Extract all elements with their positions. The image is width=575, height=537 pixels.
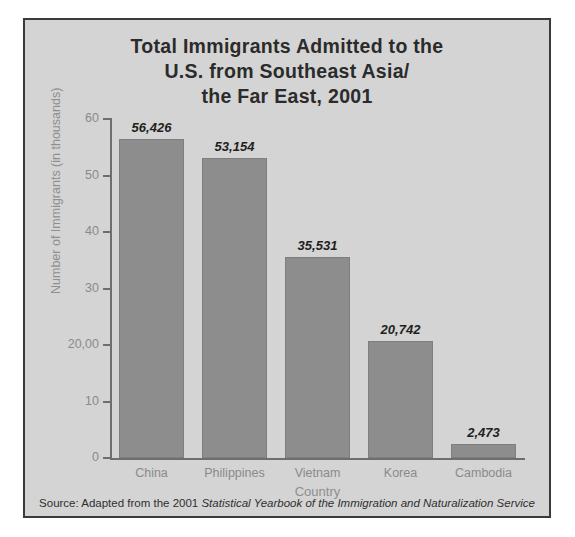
chart-title: Total Immigrants Admitted to the U.S. fr… <box>25 34 549 109</box>
bar[interactable] <box>202 158 267 458</box>
chart-figure: Total Immigrants Admitted to the U.S. fr… <box>23 18 551 518</box>
y-axis-title: Number of Immigrants (in thousands) <box>49 104 63 294</box>
chart-title-line-1: Total Immigrants Admitted to the <box>25 34 549 59</box>
chart-title-line-2: U.S. from Southeast Asia/ <box>25 59 549 84</box>
source-publication-title: Statistical Yearbook of the Immigration … <box>201 497 534 509</box>
y-axis-tick-label: 20,00 <box>47 338 99 350</box>
y-axis-tick-label: 0 <box>47 451 99 463</box>
source-note: Source: Adapted from the 2001 Statistica… <box>35 496 539 510</box>
x-axis-category-label: Philippines <box>188 466 281 480</box>
x-axis-category-label: Korea <box>354 466 447 480</box>
x-axis-line <box>110 458 525 460</box>
x-axis-category-label: Cambodia <box>437 466 530 480</box>
bar[interactable] <box>119 139 184 458</box>
chart-title-line-3: the Far East, 2001 <box>25 84 549 109</box>
bar[interactable] <box>451 444 516 458</box>
bar-value-label: 56,426 <box>107 120 196 135</box>
bar[interactable] <box>285 257 350 458</box>
source-prefix: Source: Adapted from the 2001 <box>39 497 201 509</box>
x-axis-category-label: China <box>105 466 198 480</box>
bar-value-label: 53,154 <box>190 139 279 154</box>
bar[interactable] <box>368 341 433 458</box>
x-axis-category-label: Vietnam <box>271 466 364 480</box>
bar-value-label: 20,742 <box>356 322 445 337</box>
plot-area: 56,42653,15435,53120,7422,473 <box>110 119 525 458</box>
bar-value-label: 35,531 <box>273 238 362 253</box>
y-axis-tick-label: 10 <box>47 395 99 407</box>
bar-value-label: 2,473 <box>439 425 528 440</box>
